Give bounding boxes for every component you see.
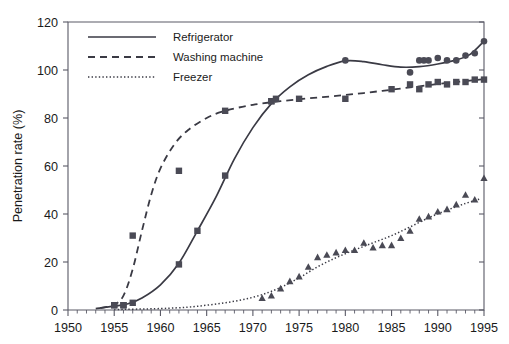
data-point-washing-machine [120,302,126,308]
x-tick-label: 1955 [100,321,128,335]
y-tick-label: 80 [44,112,58,126]
data-point-washing-machine [425,81,431,87]
data-point-refrigerator [453,57,460,64]
data-point-refrigerator [481,38,488,45]
data-point-washing-machine [462,79,468,85]
data-point-washing-machine [481,76,487,82]
y-tick-label: 0 [51,304,58,318]
data-point-washing-machine [342,96,348,102]
legend-label-washing-machine: Washing machine [173,51,263,63]
data-point-washing-machine [176,168,182,174]
data-point-washing-machine [222,108,228,114]
y-tick-label: 120 [37,16,58,30]
data-point-washing-machine [435,79,441,85]
y-tick-label: 40 [44,208,58,222]
data-point-refrigerator [462,52,469,59]
data-point-refrigerator [222,172,228,178]
data-point-washing-machine [472,76,478,82]
legend-label-freezer: Freezer [173,71,212,83]
data-point-washing-machine [416,86,422,92]
x-tick-label: 1980 [331,321,359,335]
x-tick-label: 1950 [54,321,82,335]
data-point-refrigerator [471,50,478,57]
data-point-refrigerator [425,57,432,64]
chart-container: 020406080100120 195019551960196519701975… [0,0,509,344]
data-point-refrigerator [342,57,349,64]
data-point-washing-machine [388,86,394,92]
data-point-refrigerator [407,69,414,76]
data-point-refrigerator [176,261,182,267]
data-point-washing-machine [453,79,459,85]
data-point-refrigerator [444,57,451,64]
y-tick-label: 60 [44,160,58,174]
x-tick-label: 1960 [146,321,174,335]
data-point-washing-machine [407,81,413,87]
data-point-washing-machine [268,98,274,104]
y-axis-title: Penetration rate (%) [11,110,25,223]
data-point-washing-machine [111,302,117,308]
data-point-refrigerator [194,228,200,234]
x-tick-label: 1985 [378,321,406,335]
x-tick-label: 1990 [424,321,452,335]
x-tick-label: 1975 [285,321,313,335]
y-tick-label: 100 [37,64,58,78]
x-tick-label: 1995 [470,321,498,335]
x-tick-label: 1965 [193,321,221,335]
data-point-washing-machine [130,232,136,238]
y-tick-label: 20 [44,256,58,270]
penetration-rate-line-chart: 020406080100120 195019551960196519701975… [0,0,509,344]
data-point-refrigerator [434,55,441,62]
data-point-refrigerator [130,300,136,306]
data-point-washing-machine [296,96,302,102]
data-point-washing-machine [444,81,450,87]
x-tick-label: 1970 [239,321,267,335]
legend-label-refrigerator: Refrigerator [173,31,233,43]
